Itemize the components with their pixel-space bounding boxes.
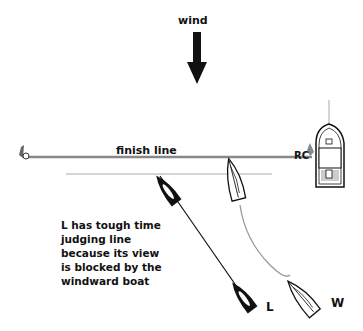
explanation-note: L has tough time judging line because it… — [61, 218, 171, 288]
wind-arrow-icon — [187, 32, 207, 84]
boat-l-start-icon — [151, 172, 181, 207]
boat-l-end-icon — [227, 279, 257, 314]
pin-mark-icon — [19, 145, 29, 159]
committee-boat-label: RC — [294, 150, 309, 161]
boat-w-label: W — [331, 296, 344, 310]
finish-line-diagram — [0, 0, 363, 331]
committee-boat-icon — [316, 100, 344, 187]
boat-w-start-icon — [222, 157, 246, 201]
boat-w-end-icon — [282, 276, 320, 317]
finish-line-label: finish line — [116, 144, 177, 157]
boat-w-track — [240, 205, 290, 276]
boat-l-label: L — [266, 300, 274, 314]
wind-label: wind — [178, 14, 208, 27]
